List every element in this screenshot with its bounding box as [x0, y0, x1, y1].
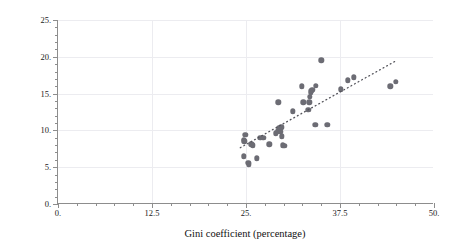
x-axis-tick-minor [265, 203, 266, 206]
y-axis-tick [53, 94, 58, 95]
x-axis-tick-minor [284, 203, 285, 206]
data-point [299, 84, 304, 89]
data-point [267, 142, 272, 147]
y-axis-tick-minor [55, 175, 58, 176]
x-axis-tick-label: 0. [55, 209, 61, 218]
x-axis-tick-minor [77, 203, 78, 206]
y-axis-tick-minor [55, 72, 58, 73]
data-point [313, 83, 318, 88]
gridline-vertical [246, 20, 247, 203]
y-axis-tick-minor [55, 35, 58, 36]
y-axis-tick [53, 20, 58, 21]
data-point [351, 75, 356, 80]
x-axis-tick-minor [359, 203, 360, 206]
y-axis-tick-minor [55, 42, 58, 43]
x-axis-tick-minor [227, 203, 228, 206]
plot-area: 0.5.10.15.20.25.0.12.525.37.550. [57, 20, 433, 204]
y-axis-tick-label: 0. [45, 200, 51, 209]
x-axis-tick-minor [378, 203, 379, 206]
data-point [393, 79, 398, 84]
data-point [345, 78, 350, 83]
y-axis-tick-label: 15. [40, 89, 51, 98]
y-axis-tick-label: 10. [40, 126, 51, 135]
y-axis-tick-minor [55, 182, 58, 183]
y-axis-tick-label: 20. [40, 53, 51, 62]
data-point [290, 109, 295, 114]
data-point [282, 143, 287, 148]
y-axis-tick-minor [55, 27, 58, 28]
data-point [243, 132, 248, 137]
gridline-vertical [152, 20, 153, 203]
y-axis-tick-minor [55, 152, 58, 153]
y-axis-tick-minor [55, 116, 58, 117]
data-point [312, 122, 317, 127]
y-axis-tick-minor [55, 86, 58, 87]
plot-canvas [58, 20, 433, 203]
x-axis-tick-label: 12.5 [145, 209, 160, 218]
y-axis-tick-minor [55, 197, 58, 198]
y-axis-tick-minor [55, 123, 58, 124]
y-axis-tick [53, 167, 58, 168]
gridline-vertical [340, 20, 341, 203]
y-axis-tick-minor [55, 101, 58, 102]
data-point [279, 134, 284, 139]
data-point [318, 58, 323, 63]
data-point [388, 84, 393, 89]
y-axis-tick-minor [55, 160, 58, 161]
data-point [300, 100, 305, 105]
y-axis-tick-minor [55, 49, 58, 50]
x-axis-tick-minor [321, 203, 322, 206]
x-axis-tick-minor [190, 203, 191, 206]
x-axis-tick-label: 25. [241, 209, 252, 218]
y-axis-tick-minor [55, 79, 58, 80]
x-axis-tick-minor [302, 203, 303, 206]
y-axis-tick-label: 25. [40, 16, 51, 25]
y-axis-tick [53, 130, 58, 131]
x-axis-title: Gini coefficient (percentage) [57, 228, 433, 239]
y-axis-title-wrapper: Relative income poverty (percentage) [21, 0, 37, 252]
x-axis-tick-minor [96, 203, 97, 206]
y-axis-tick-minor [55, 64, 58, 65]
data-point [279, 125, 284, 130]
y-axis-tick-minor [55, 138, 58, 139]
y-axis-tick-minor [55, 108, 58, 109]
y-axis-tick [53, 57, 58, 58]
data-point [306, 100, 311, 105]
y-axis-tick-minor [55, 145, 58, 146]
chart-figure: 0.5.10.15.20.25.0.12.525.37.550. Gini co… [0, 0, 459, 252]
data-point [254, 156, 259, 161]
x-axis-tick-minor [171, 203, 172, 206]
x-axis-tick-minor [415, 203, 416, 206]
data-point [261, 135, 266, 140]
data-point [325, 122, 330, 127]
data-point [276, 100, 281, 105]
x-axis-tick-minor [208, 203, 209, 206]
data-point [338, 86, 343, 91]
y-axis-tick-label: 5. [45, 163, 51, 172]
x-axis-tick-label: 50. [429, 209, 440, 218]
data-point [250, 142, 255, 147]
data-point [246, 162, 251, 167]
y-axis-tick-minor [55, 189, 58, 190]
x-axis-tick-minor [114, 203, 115, 206]
data-point [306, 107, 311, 112]
x-axis-tick-label: 37.5 [333, 209, 348, 218]
x-axis-tick-minor [133, 203, 134, 206]
data-point [309, 87, 314, 92]
x-axis-tick-minor [396, 203, 397, 206]
